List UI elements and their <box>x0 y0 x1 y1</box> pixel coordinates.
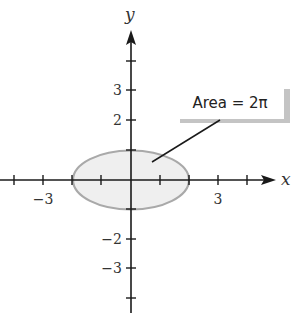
y-tick-label-neg3: −3 <box>101 260 122 276</box>
x-tick-label-3: 3 <box>214 191 223 207</box>
ellipse-plot: −3 3 x 3 2 −2 −3 y Area = 2π <box>0 0 295 321</box>
y-tick-label-3: 3 <box>113 82 122 98</box>
y-tick-label-neg2: −2 <box>101 231 122 247</box>
callout-label: Area = 2π <box>192 94 267 112</box>
y-axis-label: y <box>124 4 135 24</box>
callout-leader-line <box>152 120 220 162</box>
x-axis-label: x <box>281 169 291 189</box>
y-tick-label-2: 2 <box>113 112 122 128</box>
area-callout: Area = 2π <box>152 85 290 162</box>
x-tick-label-neg3: −3 <box>33 191 54 207</box>
